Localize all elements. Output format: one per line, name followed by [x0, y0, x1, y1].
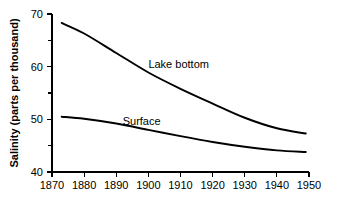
y-axis-tick-labels: 40506070	[31, 8, 43, 178]
x-tick-label: 1920	[200, 179, 224, 191]
data-series-group	[62, 23, 306, 152]
series-line-surface	[62, 117, 306, 152]
x-tick-label: 1940	[265, 179, 289, 191]
y-axis-title: Salinity (parts per thousand)	[8, 18, 20, 167]
x-tick-label: 1950	[297, 179, 321, 191]
series-line-lake-bottom	[62, 23, 306, 134]
series-annotations-group: Lake bottomSurface	[123, 58, 209, 127]
x-tick-label: 1910	[168, 179, 192, 191]
x-tick-label: 1870	[40, 179, 64, 191]
y-tick-label: 40	[31, 166, 43, 178]
y-axis-minor-ticks	[48, 40, 52, 145]
series-label-surface: Surface	[123, 115, 161, 127]
series-label-lake-bottom: Lake bottom	[148, 58, 209, 70]
x-axis-tick-labels: 187018801890190019101920193019401950	[40, 179, 321, 191]
chart-canvas: 40506070 1870188018901900191019201930194…	[0, 0, 342, 206]
x-axis-ticks	[52, 172, 309, 177]
y-tick-label: 60	[31, 61, 43, 73]
x-tick-label: 1900	[136, 179, 160, 191]
x-tick-label: 1930	[233, 179, 257, 191]
salinity-line-chart: 40506070 1870188018901900191019201930194…	[0, 0, 342, 206]
x-tick-label: 1880	[72, 179, 96, 191]
y-tick-label: 50	[31, 113, 43, 125]
x-tick-label: 1890	[104, 179, 128, 191]
y-tick-label: 70	[31, 8, 43, 20]
